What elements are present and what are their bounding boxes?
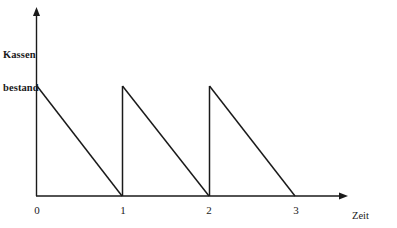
x-axis-title: Zeit (Perioden) (352, 188, 396, 228)
x-axis-title-line1: Zeit (352, 210, 396, 221)
sawtooth-decline-1 (37, 86, 122, 196)
arrow-right-icon (339, 193, 348, 200)
x-tick-label-2: 2 (199, 204, 219, 216)
arrow-up-icon (33, 7, 40, 16)
plot-area (0, 0, 397, 228)
y-axis-title: Kassen bestand (3, 27, 39, 115)
sawtooth-decline-2 (123, 86, 210, 196)
y-axis-title-line1: Kassen (3, 49, 39, 60)
x-tick-label-0: 0 (27, 204, 47, 216)
x-tick-label-3: 3 (286, 204, 306, 216)
x-tick-label-1: 1 (113, 204, 133, 216)
sawtooth-decline-3 (210, 86, 296, 196)
cash-balance-diagram: Kassen bestand Zeit (Perioden) 0 1 2 3 (0, 0, 397, 228)
y-axis-title-line2: bestand (3, 82, 39, 93)
